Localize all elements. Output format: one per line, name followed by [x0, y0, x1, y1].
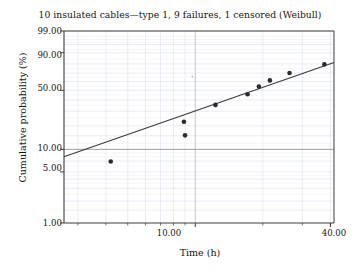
plot-canvas — [0, 0, 360, 270]
weibull-probability-plot-figure: 10 insulated cables—type 1, 9 failures, … — [0, 0, 360, 270]
data-point-marker — [245, 92, 250, 97]
gridlines-minor — [64, 31, 334, 223]
data-point-marker — [257, 84, 262, 89]
censored-point-marker — [191, 76, 193, 78]
data-point-marker — [108, 159, 113, 164]
data-point-marker — [287, 71, 292, 76]
data-point-marker — [268, 78, 273, 83]
weibull-fit-line — [64, 62, 334, 156]
data-point-marker — [182, 119, 187, 124]
axis-ticks — [60, 31, 334, 227]
data-point-marker — [213, 103, 218, 108]
data-point-marker — [322, 62, 327, 67]
data-point-marker — [183, 133, 188, 138]
censored-point-group — [191, 76, 193, 78]
